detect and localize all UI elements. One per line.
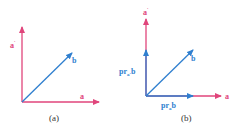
- label-b: b: [72, 56, 77, 65]
- label-a: a: [80, 92, 84, 101]
- label-proj-horizontal: prab: [161, 101, 177, 111]
- label-a: a: [225, 92, 229, 101]
- caption-a: (a): [49, 113, 59, 123]
- panel-b: a' pra'b b a prab (b): [119, 7, 229, 123]
- label-a-perp: a': [10, 40, 16, 50]
- label-a-perp: a': [143, 7, 149, 17]
- vector-b-arrow: [22, 53, 72, 102]
- caption-b: (b): [181, 113, 192, 123]
- vector-projection-diagram: a' b a (a) a' pra'b b a prab (b): [0, 0, 239, 129]
- panel-a: a' b a (a): [10, 27, 99, 123]
- label-b: b: [191, 54, 196, 63]
- vector-b-arrow: [146, 50, 193, 96]
- label-proj-vertical: pra'b: [119, 67, 136, 77]
